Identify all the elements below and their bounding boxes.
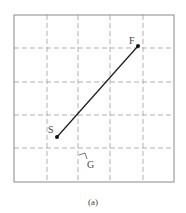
- start-label: S: [48, 124, 54, 135]
- finish-point: [136, 44, 140, 48]
- finish-label: F: [129, 35, 135, 46]
- grid-frame: [14, 15, 174, 182]
- grid-pointer-mark: [79, 153, 87, 159]
- grid-path-diagram: S F G (a): [0, 0, 186, 213]
- path-line: [57, 46, 138, 137]
- grid-label: G: [87, 159, 94, 170]
- grid-lines: [14, 15, 174, 182]
- start-point: [55, 135, 59, 139]
- figure-caption: (a): [88, 197, 98, 207]
